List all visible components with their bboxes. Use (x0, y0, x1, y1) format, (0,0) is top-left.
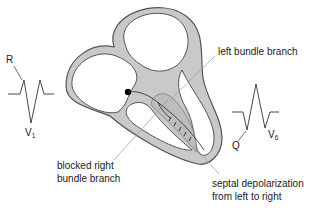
v1-lead-subscript: 1 (32, 132, 36, 139)
v6-lead-name: V (268, 129, 275, 140)
septal-depolarization-label-line1: septal depolarization (212, 178, 304, 190)
septal-depolarization-label-line2: from left to right (212, 191, 281, 203)
v1-lead-label: V1 (25, 127, 35, 142)
v1-lead-name: V (25, 127, 32, 138)
blocked-right-bundle-branch-label-line2: bundle branch (57, 173, 120, 185)
blocked-right-bundle-branch-label-line1: blocked right (57, 160, 114, 172)
v6-lead-subscript: 6 (275, 134, 279, 141)
r-wave-pointer (14, 66, 22, 80)
heart-conduction-diagram: R V1 Q V6 left bundle branch blocked rig… (0, 0, 309, 211)
v6-lead-label: V6 (268, 129, 278, 144)
r-wave-label: R (6, 54, 13, 66)
q-wave-label: Q (232, 140, 240, 152)
left-bundle-branch-label: left bundle branch (218, 46, 298, 58)
ecg-v1-trace (8, 66, 54, 123)
